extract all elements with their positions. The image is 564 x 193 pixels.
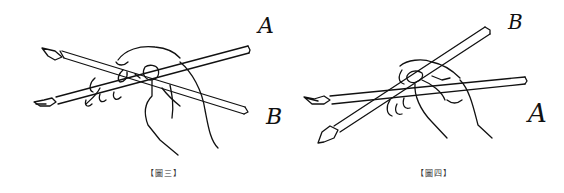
figure-4: B A 【圖四】 xyxy=(282,0,564,193)
caption-fig-4: 【圖四】 xyxy=(416,167,452,178)
caption-fig-3: 【圖三】 xyxy=(146,167,182,178)
hand-brushes-drawing-3 xyxy=(0,0,282,193)
label-b: B xyxy=(266,106,282,128)
label-b: B xyxy=(508,12,523,32)
label-a: A xyxy=(258,15,274,37)
label-a: A xyxy=(528,100,547,126)
hand-4 xyxy=(387,60,492,138)
hand-3 xyxy=(85,47,218,155)
figure-3: A B 【圖三】 xyxy=(0,0,282,193)
